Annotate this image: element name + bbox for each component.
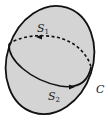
- label-curve-c: C: [96, 83, 105, 96]
- ellipsoid-diagram: S1 S2 C: [0, 0, 108, 127]
